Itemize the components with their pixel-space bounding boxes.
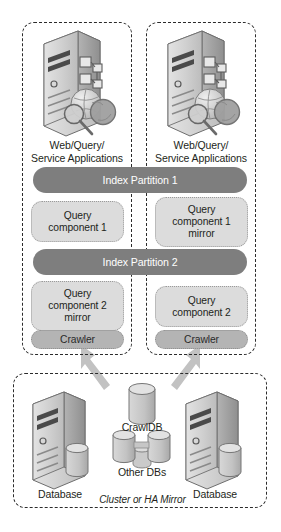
left-server-label: Web/Query/ Service Applications — [22, 139, 132, 164]
search-topology-diagram: Web/Query/ Service Applications Web/Quer… — [0, 0, 281, 532]
crawler-right-label: Crawler — [184, 334, 219, 346]
query-component-1-label-line2: component 1 — [48, 222, 106, 234]
query-component-1-mirror-label-line3: mirror — [188, 228, 214, 240]
index-partition-2-bar[interactable]: Index Partition 2 — [33, 249, 247, 275]
left-server-label-line2: Service Applications — [22, 152, 132, 165]
query-component-1-mirror-label-line1: Query — [188, 204, 216, 216]
other-dbs-label: Other DBs — [102, 466, 182, 479]
query-component-2-mirror-label-line3: mirror — [64, 312, 90, 324]
crawler-left-label: Crawler — [60, 334, 95, 346]
right-server-label: Web/Query/ Service Applications — [146, 139, 256, 164]
right-server-label-line1: Web/Query/ — [146, 139, 256, 152]
crawldb-label: CrawlDB — [102, 421, 182, 434]
query-component-1-mirror-box[interactable]: Query component 1 mirror — [155, 197, 248, 247]
index-partition-1-label: Index Partition 1 — [103, 174, 178, 186]
cluster-ha-mirror-caption: Cluster or HA Mirror — [85, 494, 200, 505]
query-component-1-label-line1: Query — [64, 210, 92, 222]
query-component-2-mirror-label-line1: Query — [64, 288, 92, 300]
crawler-left-box[interactable]: Crawler — [31, 330, 124, 349]
crawler-right-box[interactable]: Crawler — [155, 330, 248, 349]
index-partition-1-bar[interactable]: Index Partition 1 — [33, 167, 247, 193]
figure-caption — [8, 521, 273, 531]
right-server-label-line2: Service Applications — [146, 152, 256, 165]
query-component-2-mirror-box[interactable]: Query component 2 mirror — [31, 281, 124, 331]
query-component-2-box[interactable]: Query component 2 — [155, 286, 248, 327]
left-server-label-line1: Web/Query/ — [22, 139, 132, 152]
index-partition-2-label: Index Partition 2 — [103, 256, 178, 268]
query-component-2-mirror-label-line2: component 2 — [48, 300, 106, 312]
query-component-1-mirror-label-line2: component 1 — [172, 216, 230, 228]
query-component-2-label-line1: Query — [188, 295, 216, 307]
query-component-2-label-line2: component 2 — [172, 307, 230, 319]
query-component-1-box[interactable]: Query component 1 — [31, 201, 124, 242]
